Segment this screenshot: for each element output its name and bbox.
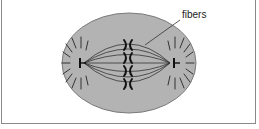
cell-diagram [0, 0, 259, 129]
fibers-label: fibers [182, 9, 206, 20]
